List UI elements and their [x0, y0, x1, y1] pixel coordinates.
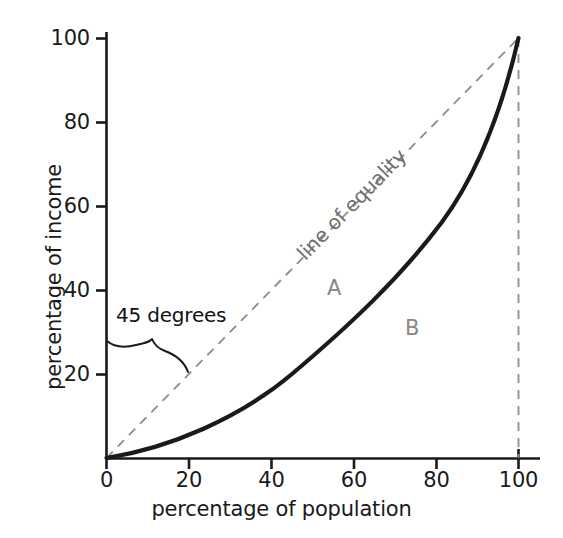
y-axis-title: percentage of income	[42, 164, 66, 390]
lorenz-curve-chart: 100 80 60 40 20 0 20 40 60 80 100 percen…	[0, 0, 563, 538]
y-tick-label-80: 80	[30, 110, 90, 134]
area-a-label: A	[327, 276, 341, 300]
x-tick-label-20: 20	[159, 468, 219, 492]
x-tick-label-100: 100	[489, 468, 549, 492]
forty-five-degrees-brace	[107, 339, 188, 372]
x-tick-label-40: 40	[242, 468, 302, 492]
y-tick-label-100: 100	[30, 26, 90, 50]
x-tick-label-80: 80	[407, 468, 467, 492]
forty-five-degrees-label: 45 degrees	[116, 303, 226, 327]
chart-canvas	[0, 0, 563, 538]
x-axis-title: percentage of population	[0, 497, 563, 521]
x-tick-label-0: 0	[77, 468, 137, 492]
area-b-label: B	[405, 316, 419, 340]
x-tick-label-60: 60	[324, 468, 384, 492]
